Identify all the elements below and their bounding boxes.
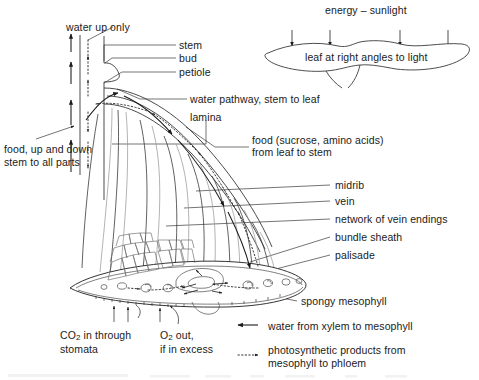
water-flow-arrows [71, 34, 250, 268]
label-food-from-leaf-line2: from leaf to stem [252, 146, 332, 159]
label-food-up-and-down-line2: stem to all parts [4, 156, 80, 169]
label-water-pathway: water pathway, stem to leaf [190, 93, 320, 106]
legend-item-water-label: water from xylem to mesophyll [268, 320, 413, 333]
label-co2-line2: stomata [60, 343, 98, 356]
label-o2-line2: if in excess [160, 343, 213, 356]
label-food-from-leaf-line1: food (sucrose, amino acids) [252, 134, 384, 147]
label-network-of-vein-endings: network of vein endings [335, 213, 448, 226]
legend-item-products-label-line2: mesophyll to phloem [268, 357, 366, 370]
legend-item-products-label-line1: photosynthetic products from [268, 344, 406, 357]
petiole-and-midrib-outline [104, 88, 272, 252]
co2-text-pre: CO [60, 329, 76, 341]
label-stem: stem [179, 39, 202, 52]
o2-text-post: out, [173, 329, 194, 341]
label-petiole: petiole [179, 66, 211, 79]
co2-text-post: in through [81, 329, 132, 341]
diagram-canvas: water up only stem bud petiole water pat… [0, 0, 479, 380]
label-lamina: lamina [190, 111, 222, 124]
gas-exchange-arrows [114, 305, 179, 324]
label-energy-sunlight: energy – sunlight [325, 4, 407, 17]
legend-symbols [238, 325, 258, 355]
page-edge-artifact [8, 374, 407, 378]
label-midrib: midrib [335, 179, 364, 192]
label-vein: vein [335, 195, 355, 208]
label-bundle-sheath: bundle sheath [335, 231, 402, 244]
label-palisade: palisade [335, 249, 375, 262]
label-leaf-at-right-angles: leaf at right angles to light [305, 51, 428, 64]
label-water-up-only: water up only [66, 21, 130, 34]
label-bud: bud [179, 52, 197, 65]
label-food-up-and-down-line1: food, up and down [4, 143, 92, 156]
label-spongy-mesophyll: spongy mesophyll [301, 295, 387, 308]
stem-outline [80, 35, 119, 200]
